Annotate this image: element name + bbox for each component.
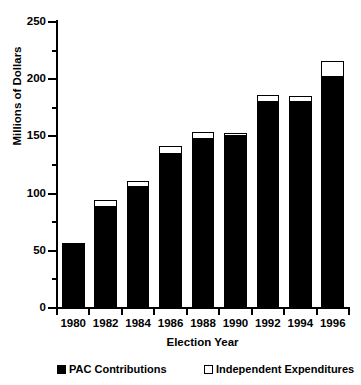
y-axis-tick-label-text: 150 xyxy=(4,130,46,142)
x-axis-tick xyxy=(186,308,188,315)
y-axis-tick-label-text: 250 xyxy=(4,16,46,28)
filled-square-icon xyxy=(57,365,66,374)
y-axis-tick-label: 100 xyxy=(0,188,46,200)
legend-item-independent-expenditures: Independent Expenditures xyxy=(204,363,354,375)
y-axis-tick-minor xyxy=(52,164,58,166)
y-axis-tick-major xyxy=(48,21,58,23)
x-axis-title: Election Year xyxy=(56,336,349,348)
bar-segment-independent-expenditures xyxy=(94,200,117,207)
bar-segment-independent-expenditures xyxy=(192,132,215,139)
bar-chart: Millions of Dollars 050100150200250 1980… xyxy=(0,0,361,385)
y-axis-tick-label-text: 0 xyxy=(4,302,46,314)
bar-segment-pac-contributions xyxy=(192,139,215,308)
x-axis-tick xyxy=(121,308,123,315)
legend: PAC Contributions Independent Expenditur… xyxy=(0,363,361,381)
bar-1996 xyxy=(321,61,344,308)
y-axis-tick-minor xyxy=(52,221,58,223)
x-axis-tick xyxy=(88,308,90,315)
y-axis-tick-minor xyxy=(52,50,58,52)
bar-segment-pac-contributions xyxy=(127,187,150,308)
legend-item-pac-contributions: PAC Contributions xyxy=(57,363,167,375)
bar-segment-independent-expenditures xyxy=(321,61,344,77)
bar-1994 xyxy=(289,96,312,308)
bar-1986 xyxy=(159,146,182,308)
y-axis-tick-major xyxy=(48,193,58,195)
bar-segment-pac-contributions xyxy=(257,102,280,308)
y-axis-tick-label: 200 xyxy=(0,73,46,85)
bar-1982 xyxy=(94,200,117,308)
y-axis-tick-minor xyxy=(52,278,58,280)
bar-segment-pac-contributions xyxy=(62,243,85,308)
x-axis-tick xyxy=(218,308,220,315)
bar-segment-pac-contributions xyxy=(159,154,182,308)
bar-segment-pac-contributions xyxy=(289,102,312,308)
x-axis-tick xyxy=(283,308,285,315)
y-axis-title: Millions of Dollars xyxy=(11,0,23,196)
y-axis-tick-major xyxy=(48,250,58,252)
bar-segment-independent-expenditures xyxy=(159,146,182,154)
bar-1988 xyxy=(192,132,215,308)
y-axis-tick-label-text: 200 xyxy=(4,73,46,85)
legend-label-independent-expenditures: Independent Expenditures xyxy=(216,363,354,375)
legend-label-pac-contributions: PAC Contributions xyxy=(69,363,167,375)
x-axis-tick-label: 1996 xyxy=(313,318,353,330)
y-axis-tick-major xyxy=(48,78,58,80)
y-axis-tick-minor xyxy=(52,107,58,109)
bar-1984 xyxy=(127,181,150,308)
bar-segment-pac-contributions xyxy=(224,136,247,308)
x-axis-tick xyxy=(153,308,155,315)
y-axis-tick-label-text: 100 xyxy=(4,188,46,200)
y-axis-tick-label: 50 xyxy=(0,245,46,257)
x-axis-tick xyxy=(56,308,58,315)
y-axis-tick-major xyxy=(48,135,58,137)
bar-1992 xyxy=(257,95,280,308)
x-axis-tick xyxy=(316,308,318,315)
open-square-icon xyxy=(204,365,213,374)
y-axis-tick-label-text: 50 xyxy=(4,245,46,257)
bar-segment-independent-expenditures xyxy=(257,95,280,102)
bar-1990 xyxy=(224,133,247,308)
x-axis-tick xyxy=(348,308,350,315)
bar-segment-pac-contributions xyxy=(94,207,117,308)
y-axis-tick-label: 0 xyxy=(0,302,46,314)
y-axis-tick-label: 150 xyxy=(0,130,46,142)
x-axis-tick xyxy=(251,308,253,315)
y-axis-tick-label: 250 xyxy=(0,16,46,28)
bar-segment-pac-contributions xyxy=(321,77,344,308)
bar-1980 xyxy=(62,243,85,308)
